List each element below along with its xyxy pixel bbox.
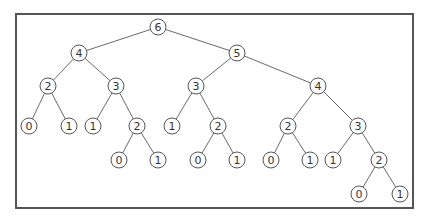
node-label: 1	[330, 154, 337, 167]
node-label: 2	[45, 80, 52, 93]
node-label: 3	[193, 80, 200, 93]
tree-node: 3	[350, 118, 366, 134]
node-label: 3	[113, 80, 120, 93]
node-label: 2	[376, 154, 383, 167]
tree-node: 2	[210, 118, 226, 134]
tree-node: 1	[302, 152, 318, 168]
tree-node: 0	[263, 152, 279, 168]
tree-node: 1	[229, 152, 245, 168]
tree-node: 0	[190, 152, 206, 168]
node-label: 3	[355, 120, 362, 133]
tree-node: 2	[280, 118, 296, 134]
tree-node: 1	[61, 118, 77, 134]
tree-node: 1	[164, 118, 180, 134]
tree-node: 2	[129, 118, 145, 134]
tree-node: 6	[150, 19, 166, 35]
node-label: 1	[66, 120, 73, 133]
tree-node: 0	[21, 118, 37, 134]
node-label: 0	[356, 188, 363, 201]
tree-node: 3	[108, 78, 124, 94]
node-label: 2	[215, 120, 222, 133]
node-label: 5	[234, 47, 241, 60]
node-label: 0	[195, 154, 202, 167]
tree-node: 4	[71, 45, 87, 61]
tree-node: 2	[371, 152, 387, 168]
tree-node: 2	[40, 78, 56, 94]
tree-node: 0	[351, 186, 367, 202]
diagram-frame	[16, 14, 413, 208]
node-label: 0	[116, 154, 123, 167]
tree-node: 3	[188, 78, 204, 94]
node-label: 0	[26, 120, 33, 133]
node-label: 4	[76, 47, 83, 60]
node-label: 2	[285, 120, 292, 133]
node-label: 2	[134, 120, 141, 133]
node-label: 1	[307, 154, 314, 167]
tree-node: 1	[325, 152, 341, 168]
node-label: 4	[315, 80, 322, 93]
tree-node: 5	[229, 45, 245, 61]
node-label: 1	[234, 154, 241, 167]
tree-node: 0	[111, 152, 127, 168]
tree-node: 1	[150, 152, 166, 168]
tree-node: 1	[392, 186, 408, 202]
node-label: 1	[169, 120, 176, 133]
node-label: 0	[268, 154, 275, 167]
tree-node: 1	[85, 118, 101, 134]
tree-diagram: 6452334011212230101011201	[0, 0, 428, 221]
tree-node: 4	[310, 78, 326, 94]
node-label: 1	[155, 154, 162, 167]
node-label: 1	[90, 120, 97, 133]
node-label: 1	[397, 188, 404, 201]
node-label: 6	[155, 21, 162, 34]
